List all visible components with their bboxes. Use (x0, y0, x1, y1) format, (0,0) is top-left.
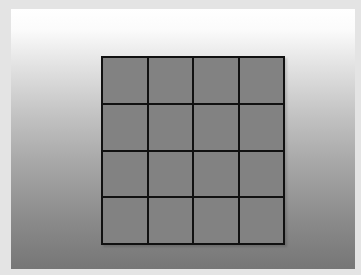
board-cell-r3-c3[interactable] (240, 198, 284, 243)
board-cell-r0-c3[interactable] (240, 58, 284, 103)
board-cell-r2-c3[interactable] (240, 152, 284, 197)
board-cell-r2-c0[interactable] (103, 152, 147, 197)
board-cell-r3-c2[interactable] (194, 198, 238, 243)
game-board-grid (101, 56, 285, 245)
board-cell-r1-c2[interactable] (194, 105, 238, 150)
board-cell-r0-c1[interactable] (149, 58, 193, 103)
window-frame (0, 0, 361, 275)
board-cell-r1-c3[interactable] (240, 105, 284, 150)
board-cell-r0-c0[interactable] (103, 58, 147, 103)
board-cell-r0-c2[interactable] (194, 58, 238, 103)
game-panel (11, 9, 355, 269)
board-cell-r2-c1[interactable] (149, 152, 193, 197)
board-cell-r1-c1[interactable] (149, 105, 193, 150)
board-cell-r2-c2[interactable] (194, 152, 238, 197)
board-cell-r3-c1[interactable] (149, 198, 193, 243)
board-cell-r1-c0[interactable] (103, 105, 147, 150)
board-cell-r3-c0[interactable] (103, 198, 147, 243)
